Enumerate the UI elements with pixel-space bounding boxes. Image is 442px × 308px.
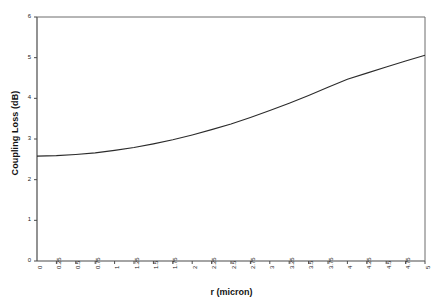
y-tick-label: 3 [19,135,31,141]
x-tick-label: 2.75 [250,257,256,269]
x-tick-label: 4 [347,266,353,269]
y-tick-label: 5 [19,54,31,60]
x-tick-label: 0.5 [75,261,81,269]
y-tick-label: 1 [19,216,31,222]
x-tick-label: 3.75 [328,257,334,269]
x-tick-label: 1.25 [134,257,140,269]
x-tick-label: 2.25 [211,257,217,269]
plot-area [0,0,442,308]
y-tick-label: 0 [19,257,31,263]
chart-figure: Coupling Loss (dB) r (micron) 0123456 00… [0,0,442,308]
data-series-line [37,55,425,156]
x-tick-label: 2.5 [231,261,237,269]
x-tick-label: 3.25 [289,257,295,269]
x-tick-label: 2 [192,266,198,269]
x-tick-label: 3 [269,266,275,269]
x-tick-label: 0.75 [95,257,101,269]
x-tick-label: 0.25 [56,257,62,269]
x-tick-label: 5 [425,266,431,269]
y-tick-label: 2 [19,176,31,182]
x-tick-label: 3.5 [308,261,314,269]
x-tick-label: 4.5 [386,261,392,269]
x-tick-label: 4.25 [366,257,372,269]
x-tick-label: 1 [114,266,120,269]
x-tick-label: 1.5 [153,261,159,269]
y-tick-label: 4 [19,94,31,100]
x-tick-label: 0 [37,266,43,269]
x-tick-label: 1.75 [172,257,178,269]
x-tick-label: 4.75 [405,257,411,269]
axes-frame [37,17,425,261]
y-tick-label: 6 [19,13,31,19]
